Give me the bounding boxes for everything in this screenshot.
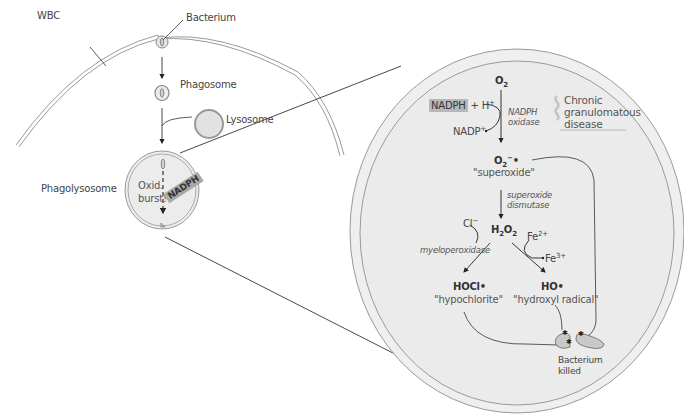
zoomed-phagolysosome bbox=[350, 49, 684, 413]
chloride-ion: Cl− bbox=[463, 218, 478, 229]
cgd-line1: Chronic bbox=[564, 95, 602, 106]
bacterium-killed-line1: Bacterium bbox=[558, 356, 603, 365]
nadph-highlight: NADPH bbox=[429, 99, 468, 112]
ho-name: "hydroxyl radical" bbox=[513, 295, 598, 305]
phagolysosome-label: Phagolysosome bbox=[41, 184, 117, 194]
nadph-reactant: NADPH + H+ bbox=[429, 100, 495, 111]
svg-text:✱: ✱ bbox=[578, 330, 584, 338]
bacterium-killed-line2: killed bbox=[558, 367, 581, 376]
o2-label: O2 bbox=[495, 76, 508, 89]
superoxide-name: "superoxide" bbox=[473, 168, 535, 178]
ho-formula: HO• bbox=[541, 282, 564, 292]
lysosome bbox=[195, 110, 223, 138]
nadph-oxidase-label: NADPHoxidase bbox=[508, 107, 539, 127]
h2o2-formula: H2O2 bbox=[491, 225, 517, 238]
bacterium-entering bbox=[156, 36, 168, 48]
svg-text:✱: ✱ bbox=[566, 338, 572, 346]
superoxide-dismutase-label: superoxidedismutase bbox=[507, 190, 552, 210]
cgd-line3: disease bbox=[564, 119, 602, 130]
wbc-membrane bbox=[16, 35, 344, 156]
myeloperoxidase-label: myeloperoxidase bbox=[420, 245, 490, 255]
svg-text:✱: ✱ bbox=[562, 329, 568, 337]
bacterium-label: Bacterium bbox=[186, 13, 236, 23]
phagosome-label: Phagosome bbox=[180, 80, 236, 90]
ferric-ion: Fe3+ bbox=[545, 253, 566, 264]
ferrous-ion: Fe2+ bbox=[527, 231, 548, 242]
phagosome bbox=[155, 86, 169, 101]
wbc-label: WBC bbox=[37, 11, 60, 21]
lysosome-merge-line bbox=[162, 117, 192, 126]
cgd-line2: granulomatous bbox=[564, 107, 641, 118]
wbc-leader bbox=[90, 47, 106, 66]
oxid-burst-line1: Oxid. bbox=[138, 181, 163, 191]
lysosome-label: Lysosome bbox=[226, 115, 274, 125]
hocl-formula: HOCl• bbox=[453, 282, 486, 292]
hocl-name: "hypochlorite" bbox=[434, 295, 503, 305]
oxid-burst-line2: burst! bbox=[138, 194, 167, 204]
nadp-product: NADP+ bbox=[453, 126, 486, 137]
